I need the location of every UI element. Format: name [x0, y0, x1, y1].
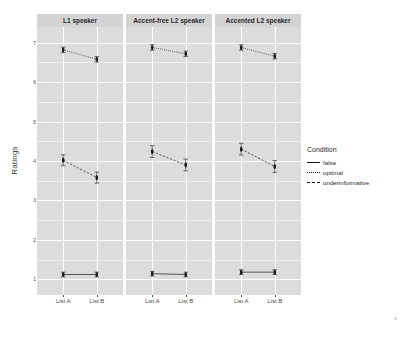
data-point[interactable] — [273, 54, 276, 59]
y-axis-tick-label: 1 — [22, 277, 36, 282]
legend-item-label: underinformative — [323, 179, 369, 186]
x-axis-tick-label: List B — [89, 298, 104, 304]
legend-item-label: optimal — [323, 169, 343, 176]
facet-strip-label: L1 speaker — [37, 14, 123, 27]
facet-panel-row: L1 speakerList AList BAccent-free L2 spe… — [37, 14, 301, 307]
legend-key-solid-line-icon — [307, 158, 320, 167]
legend-title: Condition — [307, 146, 399, 153]
series-layer — [37, 27, 123, 295]
data-point[interactable] — [184, 272, 187, 277]
data-point[interactable] — [240, 45, 243, 50]
x-axis-tick-mark — [63, 295, 64, 297]
data-point[interactable] — [240, 147, 243, 152]
y-axis-tick-label: 6 — [22, 80, 36, 85]
data-point[interactable] — [62, 158, 65, 163]
legend-item-list: falseoptimalunderinformative — [307, 157, 399, 187]
series-line — [241, 47, 275, 56]
series-line — [152, 47, 186, 53]
data-point[interactable] — [62, 47, 65, 52]
legend-item[interactable]: optimal — [307, 167, 399, 177]
y-axis-title-text: Ratings — [10, 146, 19, 175]
legend: Condition falseoptimalunderinformative — [307, 146, 399, 187]
y-axis-tick-label: 7 — [22, 40, 36, 45]
y-axis-tick-label: 3 — [22, 198, 36, 203]
x-axis-tick-mark — [275, 295, 276, 297]
data-point[interactable] — [95, 272, 98, 277]
data-point[interactable] — [184, 162, 187, 167]
plot-area — [37, 27, 123, 295]
x-axis-tick-mark — [152, 295, 153, 297]
series-layer — [126, 27, 212, 295]
facet-panel: Accented L2 speakerList AList B — [215, 14, 301, 307]
facet-panel: L1 speakerList AList B — [37, 14, 123, 307]
x-axis-tick-label: List B — [178, 298, 193, 304]
x-axis-tick-label: List A — [56, 298, 71, 304]
series-line — [152, 274, 186, 275]
legend-item[interactable]: underinformative — [307, 177, 399, 187]
y-axis-tick-label: 2 — [22, 237, 36, 242]
chevron-left-icon[interactable]: ‹ — [394, 314, 397, 323]
data-point[interactable] — [184, 51, 187, 56]
x-axis-tick-mark — [97, 295, 98, 297]
series-line — [241, 149, 275, 166]
x-axis-tick-mark — [241, 295, 242, 297]
plot-area — [215, 27, 301, 295]
legend-key-dashed-line-icon — [307, 178, 320, 187]
plot-area — [126, 27, 212, 295]
y-axis-tick-label: 5 — [22, 119, 36, 124]
facet-strip-label: Accented L2 speaker — [215, 14, 301, 27]
data-point[interactable] — [151, 271, 154, 276]
x-axis-tick-label: List A — [145, 298, 160, 304]
figure-canvas: Ratings 1234567 L1 speakerList AList BAc… — [0, 0, 402, 348]
legend-item-label: false — [323, 159, 336, 166]
x-axis: List AList B — [126, 295, 212, 307]
series-line — [63, 160, 97, 177]
data-point[interactable] — [151, 149, 154, 154]
facet-strip-label: Accent-free L2 speaker — [126, 14, 212, 27]
facet-panel: Accent-free L2 speakerList AList B — [126, 14, 212, 307]
x-axis: List AList B — [37, 295, 123, 307]
x-axis-tick-label: List A — [234, 298, 249, 304]
data-point[interactable] — [62, 272, 65, 277]
y-axis-tick-label: 4 — [22, 159, 36, 164]
series-layer — [215, 27, 301, 295]
series-line — [63, 50, 97, 59]
data-point[interactable] — [151, 45, 154, 50]
legend-key-dotted-line-icon — [307, 168, 320, 177]
data-point[interactable] — [95, 175, 98, 180]
data-point[interactable] — [273, 164, 276, 169]
data-point[interactable] — [240, 270, 243, 275]
data-point[interactable] — [273, 270, 276, 275]
y-axis: 1234567 — [20, 14, 36, 307]
series-line — [152, 152, 186, 165]
legend-item[interactable]: false — [307, 157, 399, 167]
x-axis-tick-mark — [186, 295, 187, 297]
x-axis: List AList B — [215, 295, 301, 307]
x-axis-tick-label: List B — [267, 298, 282, 304]
data-point[interactable] — [95, 57, 98, 62]
